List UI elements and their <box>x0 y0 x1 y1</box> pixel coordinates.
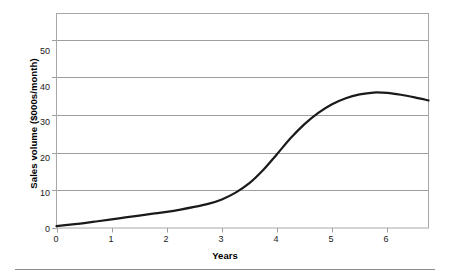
bottom-divider <box>15 269 435 270</box>
x-tick-label-5: 5 <box>319 234 343 244</box>
chart-figure: Sales volume ($000s/month) 0 10 20 30 40… <box>0 0 450 278</box>
x-tick-label-6: 6 <box>374 234 398 244</box>
y-tick-label-40: 40 <box>24 82 50 92</box>
y-tick-label-20: 20 <box>24 153 50 163</box>
y-tick-label-0: 0 <box>24 224 50 234</box>
x-tick-label-4: 4 <box>264 234 288 244</box>
x-tick-label-2: 2 <box>154 234 178 244</box>
series-line-sales-volume <box>57 92 429 226</box>
y-tick-label-30: 30 <box>24 117 50 127</box>
y-tick-label-50: 50 <box>24 46 50 56</box>
axis-ticks <box>52 41 388 233</box>
x-axis-title: Years <box>0 250 450 261</box>
x-tick-label-1: 1 <box>99 234 123 244</box>
x-tick-label-0: 0 <box>44 234 68 244</box>
y-tick-label-10: 10 <box>24 188 50 198</box>
x-tick-label-3: 3 <box>209 234 233 244</box>
plot-frame <box>57 14 429 229</box>
gridlines <box>57 41 429 191</box>
